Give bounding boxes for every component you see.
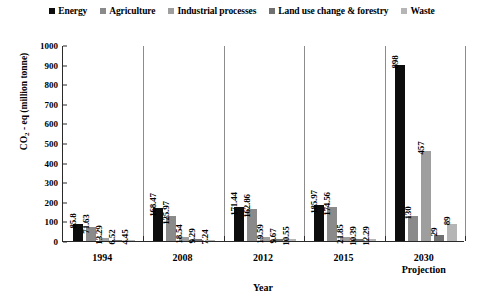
bar-column[interactable]: 29	[434, 46, 444, 241]
category-separator	[143, 46, 144, 241]
bar-column[interactable]: 10.55	[286, 46, 296, 241]
y-axis-tick-mark	[63, 65, 67, 66]
legend-item[interactable]: Waste	[401, 6, 434, 16]
bar-column[interactable]: 125.97	[166, 46, 176, 241]
bar-column[interactable]: 85.8	[73, 46, 83, 241]
bar-value-label: 9.29	[187, 229, 197, 244]
y-axis-tick-mark	[63, 183, 67, 184]
legend-item-label: Energy	[58, 6, 87, 16]
bar-value-label: 9.67	[268, 229, 278, 244]
x-axis-category-line: 1994	[92, 252, 112, 264]
bar-column[interactable]: 71.63	[86, 46, 96, 241]
y-axis-tick-mark	[63, 222, 67, 223]
category-separator	[465, 46, 466, 241]
y-axis-tick-mark	[63, 242, 67, 243]
x-axis-labels: 19942008201220152030Projection	[62, 246, 464, 280]
bar-value-label: 13.29	[94, 226, 104, 245]
bar-value-label: 10.55	[281, 226, 291, 245]
bar-column[interactable]: 21.85	[340, 46, 350, 241]
bar[interactable]	[447, 224, 457, 241]
bar-column[interactable]: 9.29	[192, 46, 202, 241]
x-axis-tick-mark	[224, 236, 225, 241]
legend-item[interactable]: Land use change & forestry	[269, 6, 388, 16]
bar-column[interactable]: 4.45	[125, 46, 135, 241]
x-axis-category-line: 2015	[333, 252, 353, 264]
bar-group: 185.97174.5621.8510.3912.29	[314, 46, 380, 241]
bar-column[interactable]: 12.29	[366, 46, 376, 241]
bar-value-label: 85.8	[68, 214, 78, 229]
y-axis-tick-mark	[63, 46, 67, 47]
x-axis-category-line: Projection	[402, 264, 446, 276]
bar-group: 171.44162.8619.599.6710.55	[234, 46, 300, 241]
y-axis-tick-mark	[63, 85, 67, 86]
bar-column[interactable]: 174.56	[327, 46, 337, 241]
bar-column[interactable]: 9.67	[273, 46, 283, 241]
bar-column[interactable]: 13.29	[99, 46, 109, 241]
x-axis-category-label: 2012	[253, 252, 273, 264]
bar-group: 85.871.6313.296.524.45	[73, 46, 139, 241]
bar-group: 8981304572989	[395, 46, 461, 241]
bar-value-label: 29	[429, 228, 439, 237]
y-axis-tick-mark	[63, 163, 67, 164]
legend-item[interactable]: Industrial processes	[168, 6, 256, 16]
x-axis-tick-mark	[465, 236, 466, 241]
y-axis-tick-label: 200	[45, 198, 64, 208]
bar-value-label: 10.39	[348, 226, 358, 245]
category-separator	[385, 46, 386, 241]
y-axis-tick-mark	[63, 104, 67, 105]
y-axis-tick-label: 800	[45, 80, 64, 90]
bar-value-label: 7.24	[200, 229, 210, 244]
y-axis-title-text: CO	[19, 136, 29, 150]
bar-column[interactable]: 18.54	[179, 46, 189, 241]
bar-value-label: 125.97	[161, 202, 171, 226]
x-axis-category-label: 2008	[173, 252, 193, 264]
legend-swatch-icon	[401, 8, 407, 14]
y-axis-tick-label: 500	[45, 139, 64, 149]
legend-item[interactable]: Energy	[49, 6, 87, 16]
bar-column[interactable]: 162.86	[247, 46, 257, 241]
bar-value-label: 168.47	[148, 193, 158, 217]
legend-swatch-icon	[269, 8, 275, 14]
bar-value-label: 457	[416, 142, 426, 155]
x-axis-category-label: 2015	[333, 252, 353, 264]
bar-value-label: 19.59	[255, 225, 265, 244]
y-axis-tick-label: 1000	[40, 41, 63, 51]
bar-column[interactable]: 19.59	[260, 46, 270, 241]
chart-root: EnergyAgricultureIndustrial processesLan…	[0, 0, 484, 306]
legend-item-label: Land use change & forestry	[278, 6, 388, 16]
x-axis-category-line: 2008	[173, 252, 193, 264]
legend-swatch-icon	[168, 8, 174, 14]
x-axis-category-label: 2030Projection	[402, 252, 446, 276]
y-axis-tick-label: 900	[45, 61, 64, 71]
bar-value-label: 71.63	[81, 214, 91, 233]
y-axis-tick-label: 300	[45, 178, 64, 188]
bar-column[interactable]: 7.24	[205, 46, 215, 241]
y-axis-tick-label: 600	[45, 119, 64, 129]
legend-swatch-icon	[100, 8, 106, 14]
bar-value-label: 21.85	[335, 224, 345, 243]
y-axis-tick-label: 400	[45, 159, 64, 169]
y-axis-tick-mark	[63, 144, 67, 145]
bar-value-label: 89	[442, 216, 452, 225]
y-axis-title: CO2 - eq (million tonne)	[19, 6, 32, 196]
y-axis-title-subscript: 2	[23, 132, 31, 136]
bar-value-label: 174.56	[322, 192, 332, 216]
legend-item-label: Agriculture	[109, 6, 155, 16]
bar-column[interactable]: 89	[447, 46, 457, 241]
x-axis-category-label: 1994	[92, 252, 112, 264]
x-axis-category-line: 2012	[253, 252, 273, 264]
bar-value-label: 6.52	[107, 229, 117, 244]
bar-value-label: 162.86	[242, 194, 252, 218]
category-separator	[304, 46, 305, 241]
bar-column[interactable]: 457	[421, 46, 431, 241]
bar-value-label: 18.54	[174, 225, 184, 244]
bar-column[interactable]: 10.39	[353, 46, 363, 241]
x-axis-tick-mark	[304, 236, 305, 241]
bar-value-label: 4.45	[120, 230, 130, 245]
x-axis-tick-mark	[385, 236, 386, 241]
legend-item[interactable]: Agriculture	[100, 6, 155, 16]
y-axis-title-suffix: - eq (million tonne)	[19, 53, 29, 133]
bar-column[interactable]: 6.52	[112, 46, 122, 241]
x-axis-category-line: 2030	[402, 252, 446, 264]
y-axis-tick-mark	[63, 202, 67, 203]
